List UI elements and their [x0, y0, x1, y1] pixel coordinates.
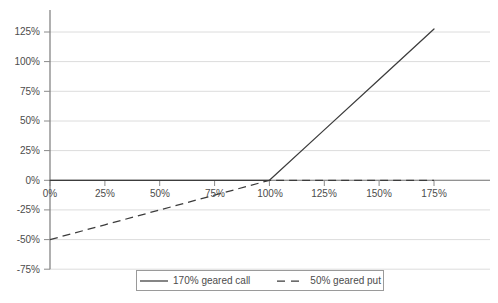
- y-tick-label-neg50: -50%: [2, 234, 40, 245]
- y-tick-label-neg25: -25%: [2, 204, 40, 215]
- chart-canvas: [0, 0, 498, 303]
- y-tick-label-125: 125%: [6, 26, 40, 37]
- x-tick-label-100: 100%: [252, 188, 288, 199]
- y-tick-label-50: 50%: [6, 115, 40, 126]
- x-tick-label-50: 50%: [144, 188, 176, 199]
- legend-swatch-dashed-icon: [276, 276, 306, 286]
- legend-label-geared-put: 50% geared put: [310, 275, 381, 286]
- y-tick-label-75: 75%: [6, 86, 40, 97]
- legend-label-geared-call: 170% geared call: [173, 275, 250, 286]
- chart-legend: 170% geared call 50% geared put: [136, 270, 384, 291]
- x-tick-label-125: 125%: [306, 188, 342, 199]
- y-tick-label-0: 0%: [6, 175, 40, 186]
- x-tick-label-0: 0%: [34, 188, 66, 199]
- legend-swatch-solid-icon: [139, 276, 169, 286]
- x-tick-label-150: 150%: [361, 188, 397, 199]
- legend-entry-geared-call[interactable]: 170% geared call: [139, 275, 250, 286]
- y-tick-label-100: 100%: [6, 56, 40, 67]
- y-tick-label-25: 25%: [6, 145, 40, 156]
- series-line-geared-call: [50, 29, 434, 180]
- y-axis-ticks: [44, 32, 50, 269]
- gridlines-horizontal: [50, 32, 490, 269]
- x-tick-label-25: 25%: [89, 188, 121, 199]
- x-tick-label-175: 175%: [416, 188, 452, 199]
- x-axis-ticks: [50, 180, 434, 186]
- chart-container: 125% 100% 75% 50% 25% 0% -25% -50% -75% …: [0, 0, 498, 303]
- legend-entry-geared-put[interactable]: 50% geared put: [276, 275, 381, 286]
- y-tick-label-neg75: -75%: [2, 264, 40, 275]
- x-tick-label-75: 75%: [199, 188, 231, 199]
